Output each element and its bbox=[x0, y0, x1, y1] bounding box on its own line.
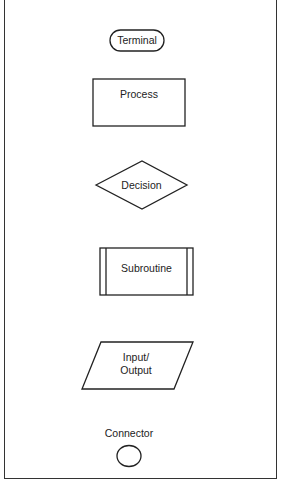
process-shape bbox=[93, 79, 185, 126]
decision-label: Decision bbox=[96, 179, 187, 192]
input-output-label-line1: Input/ bbox=[100, 351, 172, 364]
subroutine-label: Subroutine bbox=[100, 262, 193, 275]
flowchart-symbols-canvas bbox=[0, 0, 282, 485]
terminal-label: Terminal bbox=[110, 34, 164, 47]
connector-label: Connector bbox=[89, 427, 169, 440]
process-label: Process bbox=[93, 88, 185, 101]
connector-shape bbox=[117, 446, 141, 467]
input-output-label-line2: Output bbox=[100, 364, 172, 377]
